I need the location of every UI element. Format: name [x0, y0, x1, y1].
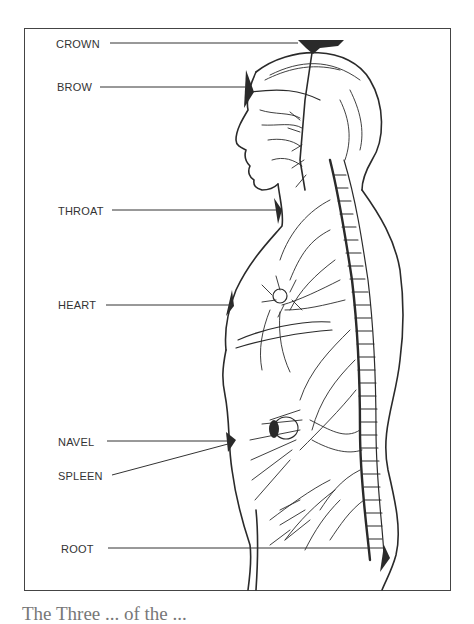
brow-nerve	[252, 90, 320, 100]
label-throat: THROAT	[58, 205, 104, 217]
torso-front	[223, 350, 251, 590]
label-navel: NAVEL	[58, 436, 94, 448]
root-marker	[380, 545, 390, 572]
neck-front	[225, 184, 282, 350]
heart-marker	[226, 290, 234, 316]
label-brow: BROW	[57, 81, 92, 93]
label-spleen: SPLEEN	[58, 470, 103, 482]
arm2	[236, 330, 332, 348]
navel-marker	[226, 432, 236, 452]
figure-caption: The Three ... of the ...	[22, 604, 187, 624]
label-heart: HEART	[58, 299, 96, 311]
label-crown: CROWN	[56, 38, 100, 50]
crown-marker	[298, 40, 344, 54]
leg-line	[256, 510, 258, 590]
spleen-leader	[112, 444, 228, 475]
label-root: ROOT	[61, 543, 94, 555]
brow-marker	[244, 70, 254, 108]
head-outline	[256, 53, 382, 190]
